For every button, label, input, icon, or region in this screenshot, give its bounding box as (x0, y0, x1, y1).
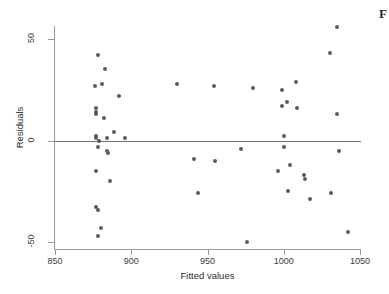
scatter-point (106, 151, 110, 155)
scatter-point (123, 136, 127, 140)
x-axis-tick-label: 1050 (340, 256, 380, 266)
scatter-point (288, 163, 292, 167)
scatter-point (282, 134, 286, 138)
scatter-point (93, 84, 97, 88)
scatter-point (294, 80, 298, 84)
x-axis-tick-label: 900 (111, 256, 151, 266)
scatter-point (105, 136, 109, 140)
scatter-point (286, 189, 290, 193)
scatter-point (308, 197, 312, 201)
x-axis-tick-label: 850 (35, 256, 75, 266)
y-axis-tick (48, 242, 54, 243)
scatter-point (303, 177, 307, 181)
y-axis-tick (48, 141, 54, 142)
y-axis-line (54, 26, 55, 250)
residual-plot-figure: 500-50 85090095010001050 Fitted values R… (0, 0, 389, 294)
scatter-point (328, 51, 332, 55)
y-axis-tick-label: -50 (26, 228, 36, 254)
scatter-point (251, 86, 255, 90)
y-axis-title: Residuals (14, 88, 25, 168)
x-axis-tick (360, 250, 361, 255)
scatter-point (94, 169, 98, 173)
scatter-point (96, 145, 100, 149)
scatter-point (346, 230, 350, 234)
plot-area: 500-50 85090095010001050 Fitted values R… (0, 0, 389, 294)
scatter-point (103, 67, 107, 71)
scatter-point (97, 139, 101, 143)
scatter-point (282, 145, 286, 149)
scatter-point (117, 94, 121, 98)
scatter-point (192, 157, 196, 161)
scatter-point (280, 88, 284, 92)
x-axis-tick (284, 250, 285, 255)
corner-figure-letter: F (379, 6, 387, 22)
scatter-point (329, 191, 333, 195)
x-axis-tick (55, 250, 56, 255)
scatter-point (102, 116, 106, 120)
scatter-point (175, 82, 179, 86)
scatter-point (99, 226, 103, 230)
scatter-point (295, 106, 299, 110)
scatter-point (96, 53, 100, 57)
scatter-point (96, 208, 100, 212)
x-axis-title: Fitted values (54, 270, 361, 281)
x-axis-tick-label: 1000 (264, 256, 304, 266)
scatter-point (112, 130, 116, 134)
scatter-point (245, 240, 249, 244)
scatter-point (213, 159, 217, 163)
scatter-point (276, 169, 280, 173)
x-axis-tick-label: 950 (188, 256, 228, 266)
scatter-point (239, 147, 243, 151)
scatter-point (94, 112, 98, 116)
scatter-point (335, 25, 339, 29)
y-axis-tick (48, 39, 54, 40)
x-axis-tick (208, 250, 209, 255)
scatter-point (335, 112, 339, 116)
scatter-point (96, 234, 100, 238)
y-axis-tick-label: 0 (26, 127, 36, 153)
scatter-point (285, 100, 289, 104)
scatter-point (337, 149, 341, 153)
scatter-point (108, 179, 112, 183)
scatter-point (196, 191, 200, 195)
x-axis-tick (131, 250, 132, 255)
scatter-point (212, 84, 216, 88)
y-axis-tick-label: 50 (26, 25, 36, 51)
scatter-point (100, 82, 104, 86)
scatter-point (280, 104, 284, 108)
